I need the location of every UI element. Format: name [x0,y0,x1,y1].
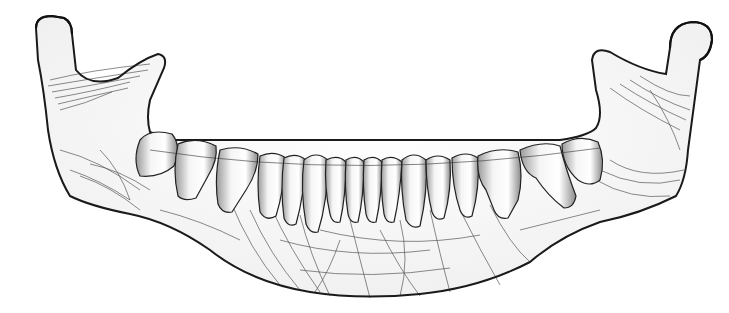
tooth-right-canine [402,155,427,227]
mandible-illustration [0,0,729,313]
mandible-image [0,0,729,313]
